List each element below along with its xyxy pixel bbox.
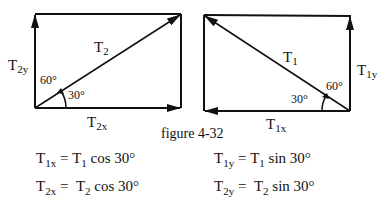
label-t2: T2: [94, 40, 109, 57]
label-t2x: T2x: [87, 115, 107, 132]
figure-caption: figure 4-32: [161, 127, 224, 141]
label-right-angle-60: 60°: [326, 80, 343, 92]
label-left-angle-60: 60°: [40, 74, 57, 86]
equation-t1y: T1y = T1 sin 30°: [214, 151, 311, 169]
equation-t1x: T1x = T1 cos 30°: [36, 151, 135, 169]
t2-arrow: [35, 15, 180, 108]
label-t1y: T1y: [357, 63, 377, 80]
right-angle-arc: [322, 96, 326, 111]
left-vector-diagram: [35, 14, 181, 108]
right-vector-diagram: [204, 15, 351, 111]
left-angle-arrowhead-icon: [57, 88, 64, 94]
label-t1: T1: [283, 50, 298, 67]
equation-t2x: T2x = T2 cos 30°: [36, 179, 139, 197]
label-right-angle-30: 30°: [291, 93, 308, 105]
label-t1x: T1x: [266, 117, 286, 134]
label-left-angle-30: 30°: [68, 89, 85, 101]
equation-t2y: T2y = T2 sin 30°: [214, 179, 315, 197]
label-t2y: T2y: [8, 58, 28, 75]
right-frame-top: [204, 15, 351, 16]
